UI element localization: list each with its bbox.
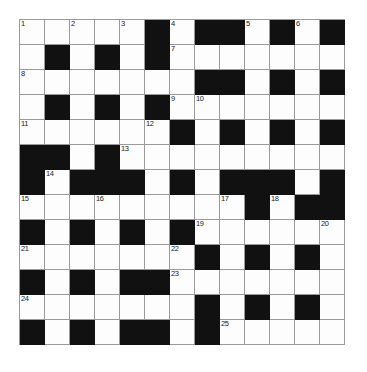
- crossword-open-cell[interactable]: 10: [195, 95, 220, 120]
- crossword-open-cell[interactable]: [270, 145, 295, 170]
- crossword-open-cell[interactable]: [195, 45, 220, 70]
- crossword-grid[interactable]: 1234567891011121314151617181920212223242…: [19, 19, 345, 345]
- crossword-open-cell[interactable]: 22: [170, 245, 195, 270]
- crossword-open-cell[interactable]: 18: [270, 195, 295, 220]
- crossword-open-cell[interactable]: [320, 320, 345, 345]
- crossword-open-cell[interactable]: 11: [20, 120, 45, 145]
- crossword-open-cell[interactable]: [95, 320, 120, 345]
- crossword-open-cell[interactable]: [295, 145, 320, 170]
- crossword-open-cell[interactable]: 6: [295, 20, 320, 45]
- crossword-open-cell[interactable]: [220, 145, 245, 170]
- crossword-open-cell[interactable]: 13: [120, 145, 145, 170]
- crossword-open-cell[interactable]: [295, 70, 320, 95]
- crossword-open-cell[interactable]: [45, 20, 70, 45]
- crossword-open-cell[interactable]: [20, 95, 45, 120]
- crossword-open-cell[interactable]: [120, 295, 145, 320]
- crossword-open-cell[interactable]: [270, 270, 295, 295]
- crossword-open-cell[interactable]: [95, 245, 120, 270]
- crossword-open-cell[interactable]: [70, 120, 95, 145]
- crossword-open-cell[interactable]: [220, 95, 245, 120]
- crossword-open-cell[interactable]: [295, 45, 320, 70]
- crossword-open-cell[interactable]: 9: [170, 95, 195, 120]
- crossword-open-cell[interactable]: 16: [95, 195, 120, 220]
- crossword-open-cell[interactable]: [95, 120, 120, 145]
- crossword-open-cell[interactable]: [120, 120, 145, 145]
- crossword-open-cell[interactable]: [70, 195, 95, 220]
- crossword-open-cell[interactable]: 25: [220, 320, 245, 345]
- crossword-open-cell[interactable]: [245, 95, 270, 120]
- crossword-open-cell[interactable]: [45, 320, 70, 345]
- crossword-open-cell[interactable]: 19: [195, 220, 220, 245]
- crossword-open-cell[interactable]: [120, 195, 145, 220]
- crossword-open-cell[interactable]: [45, 220, 70, 245]
- crossword-open-cell[interactable]: [320, 245, 345, 270]
- crossword-open-cell[interactable]: [70, 245, 95, 270]
- crossword-open-cell[interactable]: [320, 95, 345, 120]
- crossword-open-cell[interactable]: [220, 245, 245, 270]
- crossword-open-cell[interactable]: [70, 45, 95, 70]
- crossword-open-cell[interactable]: [170, 195, 195, 220]
- crossword-open-cell[interactable]: [120, 95, 145, 120]
- crossword-open-cell[interactable]: [245, 120, 270, 145]
- crossword-open-cell[interactable]: 7: [170, 45, 195, 70]
- crossword-open-cell[interactable]: [195, 120, 220, 145]
- crossword-open-cell[interactable]: 15: [20, 195, 45, 220]
- crossword-open-cell[interactable]: [170, 145, 195, 170]
- crossword-open-cell[interactable]: [295, 270, 320, 295]
- crossword-open-cell[interactable]: [295, 120, 320, 145]
- crossword-open-cell[interactable]: [245, 45, 270, 70]
- crossword-open-cell[interactable]: [195, 170, 220, 195]
- crossword-open-cell[interactable]: [145, 70, 170, 95]
- crossword-open-cell[interactable]: [95, 20, 120, 45]
- crossword-open-cell[interactable]: [120, 245, 145, 270]
- crossword-open-cell[interactable]: 2: [70, 20, 95, 45]
- crossword-open-cell[interactable]: [95, 270, 120, 295]
- crossword-open-cell[interactable]: [45, 120, 70, 145]
- crossword-open-cell[interactable]: [145, 220, 170, 245]
- crossword-open-cell[interactable]: [220, 270, 245, 295]
- crossword-open-cell[interactable]: [70, 295, 95, 320]
- crossword-open-cell[interactable]: [170, 70, 195, 95]
- crossword-open-cell[interactable]: 14: [45, 170, 70, 195]
- crossword-open-cell[interactable]: 21: [20, 245, 45, 270]
- crossword-open-cell[interactable]: [245, 70, 270, 95]
- crossword-open-cell[interactable]: [195, 145, 220, 170]
- crossword-open-cell[interactable]: [295, 170, 320, 195]
- crossword-open-cell[interactable]: [270, 320, 295, 345]
- crossword-open-cell[interactable]: [95, 70, 120, 95]
- crossword-open-cell[interactable]: [95, 295, 120, 320]
- crossword-open-cell[interactable]: [20, 45, 45, 70]
- crossword-open-cell[interactable]: [270, 245, 295, 270]
- crossword-open-cell[interactable]: 5: [245, 20, 270, 45]
- crossword-open-cell[interactable]: [220, 220, 245, 245]
- crossword-open-cell[interactable]: [145, 195, 170, 220]
- crossword-open-cell[interactable]: 23: [170, 270, 195, 295]
- crossword-open-cell[interactable]: [295, 95, 320, 120]
- crossword-puzzle[interactable]: 1234567891011121314151617181920212223242…: [19, 19, 345, 345]
- crossword-open-cell[interactable]: [220, 45, 245, 70]
- crossword-open-cell[interactable]: [45, 195, 70, 220]
- crossword-open-cell[interactable]: [145, 145, 170, 170]
- crossword-open-cell[interactable]: [45, 70, 70, 95]
- crossword-open-cell[interactable]: [270, 295, 295, 320]
- crossword-open-cell[interactable]: [70, 145, 95, 170]
- crossword-open-cell[interactable]: [195, 270, 220, 295]
- crossword-open-cell[interactable]: [220, 295, 245, 320]
- crossword-open-cell[interactable]: [245, 320, 270, 345]
- crossword-open-cell[interactable]: [145, 245, 170, 270]
- crossword-open-cell[interactable]: [45, 270, 70, 295]
- crossword-open-cell[interactable]: 12: [145, 120, 170, 145]
- crossword-open-cell[interactable]: 17: [220, 195, 245, 220]
- crossword-open-cell[interactable]: [145, 170, 170, 195]
- crossword-open-cell[interactable]: [120, 70, 145, 95]
- crossword-open-cell[interactable]: [70, 70, 95, 95]
- crossword-open-cell[interactable]: [145, 295, 170, 320]
- crossword-open-cell[interactable]: [320, 145, 345, 170]
- crossword-open-cell[interactable]: [245, 145, 270, 170]
- crossword-open-cell[interactable]: [270, 220, 295, 245]
- crossword-open-cell[interactable]: [320, 45, 345, 70]
- crossword-open-cell[interactable]: [170, 295, 195, 320]
- crossword-open-cell[interactable]: [295, 320, 320, 345]
- crossword-open-cell[interactable]: [270, 45, 295, 70]
- crossword-open-cell[interactable]: [195, 195, 220, 220]
